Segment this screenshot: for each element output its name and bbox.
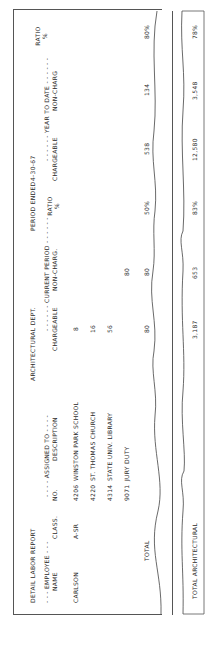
total-ytd-non-charg: 134 bbox=[143, 84, 150, 96]
department-title: ARCHITECTURAL DEPT. bbox=[29, 307, 36, 381]
grand-total-chargeable: 3,187 bbox=[191, 320, 198, 339]
employee-class: A-SR bbox=[72, 524, 79, 539]
grand-total-ratio: 83% bbox=[191, 201, 198, 215]
col-non-charg: NON-CHARG. bbox=[51, 249, 58, 291]
ytd-group-header: - - - - - - YEAR TO DATE - - - - - - bbox=[43, 58, 50, 161]
row-no: 4220 bbox=[89, 485, 96, 501]
total-ytd-ratio: 80% bbox=[143, 25, 150, 39]
col-name: NAME bbox=[51, 572, 58, 591]
row-chargeable: 56 bbox=[106, 325, 113, 333]
period-ended-date: 4-30-67 bbox=[29, 155, 36, 181]
report-title: DETAIL LABOR REPORT bbox=[29, 528, 36, 603]
row-no: 9071 bbox=[123, 485, 130, 501]
col-description: DESCRIPTION bbox=[51, 417, 58, 461]
col-ytd-ratio: RATIO bbox=[34, 21, 41, 51]
grand-total-ytd-ratio: 78% bbox=[191, 25, 198, 39]
total-label: TOTAL bbox=[143, 540, 150, 561]
col-ratio-unit: % bbox=[53, 191, 60, 221]
row-chargeable: 16 bbox=[89, 325, 96, 333]
row-description: JURY DUTY bbox=[123, 446, 130, 481]
col-ratio: RATIO bbox=[46, 191, 53, 221]
rotated-report-page: DETAIL LABOR REPORT ARCHITECTURAL DEPT. … bbox=[0, 0, 222, 651]
col-ytd-non-charg: NON-CHARG bbox=[51, 71, 58, 111]
total-non-charg: 80 bbox=[143, 268, 150, 276]
grand-total-ytd-non-charg: 3,548 bbox=[191, 81, 198, 100]
row-description: STATE UNIV. LIBRARY bbox=[106, 413, 113, 481]
row-no: 4314 bbox=[106, 485, 113, 501]
period-ended-label: PERIOD ENDED bbox=[29, 181, 36, 231]
grand-total-ytd-chargeable: 12,580 bbox=[191, 138, 198, 161]
col-class: CLASS. bbox=[51, 516, 58, 539]
grand-total-non-charg: 653 bbox=[191, 267, 198, 279]
col-ytd-chargeable: CHARGEABLE bbox=[51, 137, 58, 181]
row-non-charg: 80 bbox=[123, 268, 130, 276]
col-no: NO. bbox=[51, 489, 58, 501]
col-chargeable: CHARGEABLE bbox=[51, 307, 58, 351]
row-description: WINSTON PARK SCHOOL bbox=[72, 402, 79, 481]
row-chargeable: 8 bbox=[72, 327, 79, 331]
total-ytd-chargeable: 538 bbox=[143, 143, 150, 155]
row-description: ST. THOMAS CHURCH bbox=[89, 412, 96, 481]
grand-total-label: TOTAL ARCHITECTURAL bbox=[191, 523, 198, 599]
current-period-group-header: - - - - - - CURRENT PERIOD - - - - - - bbox=[43, 217, 50, 331]
assigned-to-group-header: - - - - ASSIGNED TO - - - - bbox=[43, 415, 50, 497]
total-ratio: 50% bbox=[143, 201, 150, 215]
employee-group-header: - - - EMPLOYEE - - - bbox=[43, 541, 50, 603]
col-ytd-ratio-unit: % bbox=[41, 21, 48, 51]
row-no: 4206 bbox=[72, 485, 79, 501]
total-chargeable: 80 bbox=[143, 325, 150, 333]
employee-name: CARLSON bbox=[72, 572, 79, 603]
